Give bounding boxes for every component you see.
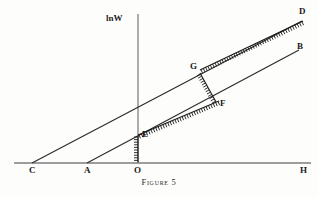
- y-axis-label: lnW: [106, 14, 123, 23]
- figure-drawing: [0, 0, 318, 197]
- figure-container: lnW C A O H D B G F E Figure 5: [0, 0, 318, 197]
- point-label-E: E: [142, 130, 148, 139]
- axes-group: [14, 14, 311, 163]
- figure-caption: Figure 5: [0, 178, 318, 187]
- hatched-E-to-F: [138, 101, 220, 138]
- hatched-E-to-O: [134, 136, 138, 162]
- point-label-A: A: [84, 166, 91, 175]
- hatched-G-to-F: [197, 73, 216, 103]
- point-label-B: B: [297, 42, 303, 51]
- point-label-C: C: [29, 166, 36, 175]
- plain-lines-group: [32, 21, 302, 163]
- line-C-to-D: [32, 21, 302, 163]
- point-label-D: D: [299, 7, 306, 16]
- point-label-H: H: [300, 166, 307, 175]
- point-label-F: F: [220, 99, 226, 108]
- hatched-segments-group: [134, 21, 304, 162]
- point-label-O: O: [134, 166, 141, 175]
- point-label-G: G: [190, 62, 197, 71]
